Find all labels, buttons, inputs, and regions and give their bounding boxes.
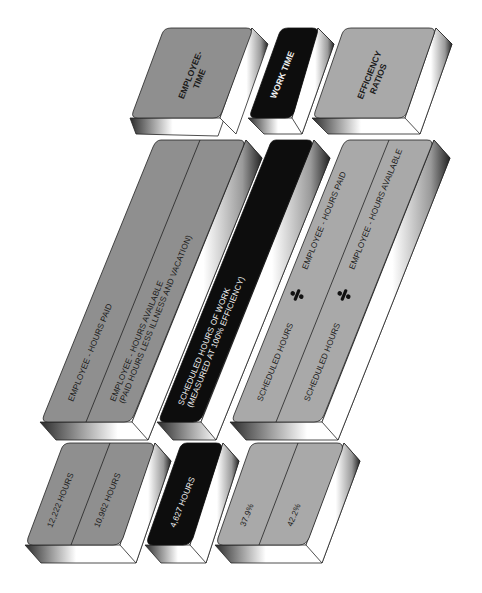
efficiency-diagram: EMPLOYEE- TIME WORK TIME EFFICIENCY RATI… [0,0,482,593]
header-employee-time-block: EMPLOYEE- TIME [130,28,268,136]
